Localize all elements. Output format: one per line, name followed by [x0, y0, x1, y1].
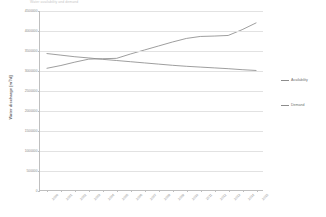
series-line-demand	[47, 23, 256, 68]
grid-line	[40, 111, 263, 112]
plot-area: 0500000100000015000002000000250000030000…	[39, 11, 263, 191]
y-tick-mark	[38, 171, 40, 172]
x-tick-mark	[61, 190, 62, 192]
x-tick-label: 2014	[247, 193, 255, 201]
y-tick-label: 3500000	[25, 49, 38, 53]
x-tick-mark	[215, 190, 216, 192]
x-tick-mark	[75, 190, 76, 192]
x-tick-label: 2015	[261, 193, 269, 201]
y-tick-mark	[38, 31, 40, 32]
y-axis-title: Water discharge [m³/d]	[8, 68, 13, 128]
y-tick-label: 2500000	[25, 89, 38, 93]
x-tick-label: 2013	[233, 193, 241, 201]
x-tick-label: 2010	[191, 193, 199, 201]
y-tick-label: 0	[36, 189, 38, 193]
y-tick-label: 3000000	[25, 69, 38, 73]
y-tick-label: 1000000	[25, 149, 38, 153]
chart-legend: AvailabilityDemand	[281, 78, 308, 128]
x-tick-mark	[257, 190, 258, 192]
series-line-availability	[47, 54, 256, 71]
y-tick-mark	[38, 131, 40, 132]
y-tick-mark	[38, 111, 40, 112]
x-tick-mark	[159, 190, 160, 192]
y-tick-mark	[38, 51, 40, 52]
x-tick-mark	[229, 190, 230, 192]
grid-line	[40, 11, 263, 12]
y-tick-label: 4500000	[25, 9, 38, 13]
x-tick-mark	[173, 190, 174, 192]
x-tick-label: 2005	[121, 193, 129, 201]
x-tick-mark	[117, 190, 118, 192]
x-tick-label: 2012	[219, 193, 227, 201]
x-tick-mark	[243, 190, 244, 192]
x-tick-label: 2001	[65, 193, 73, 201]
grid-line	[40, 171, 263, 172]
grid-line	[40, 71, 263, 72]
y-tick-label: 4000000	[25, 29, 38, 33]
x-tick-label: 2009	[177, 193, 185, 201]
x-tick-mark	[131, 190, 132, 192]
x-tick-mark	[89, 190, 90, 192]
x-tick-mark	[187, 190, 188, 192]
y-tick-mark	[38, 151, 40, 152]
data-series-layer	[40, 11, 263, 190]
grid-line	[40, 151, 263, 152]
y-tick-label: 500000	[26, 169, 37, 173]
y-tick-label: 2000000	[25, 109, 38, 113]
y-tick-label: 1500000	[25, 129, 38, 133]
x-tick-mark	[201, 190, 202, 192]
chart-container: Water availability and demand Water disc…	[0, 0, 326, 217]
grid-line	[40, 51, 263, 52]
y-tick-mark	[38, 191, 40, 192]
y-tick-mark	[38, 91, 40, 92]
x-tick-label: 2000	[51, 193, 59, 201]
grid-line	[40, 31, 263, 32]
y-tick-mark	[38, 71, 40, 72]
x-tick-mark	[47, 190, 48, 192]
x-tick-label: 2004	[107, 193, 115, 201]
x-tick-label: 2002	[79, 193, 87, 201]
x-tick-label: 2007	[149, 193, 157, 201]
x-tick-label: 2008	[163, 193, 171, 201]
legend-label: Demand	[291, 103, 305, 107]
chart-title: Water availability and demand	[30, 0, 78, 4]
x-tick-label: 2011	[205, 193, 213, 201]
legend-label: Availability	[291, 78, 308, 82]
legend-item[interactable]: Demand	[281, 103, 308, 107]
grid-line	[40, 131, 263, 132]
grid-line	[40, 91, 263, 92]
legend-item[interactable]: Availability	[281, 78, 308, 82]
legend-swatch-icon	[281, 105, 289, 106]
x-tick-label: 2006	[135, 193, 143, 201]
y-tick-mark	[38, 11, 40, 12]
x-tick-mark	[145, 190, 146, 192]
x-tick-mark	[103, 190, 104, 192]
legend-swatch-icon	[281, 80, 289, 81]
x-tick-label: 2003	[93, 193, 101, 201]
